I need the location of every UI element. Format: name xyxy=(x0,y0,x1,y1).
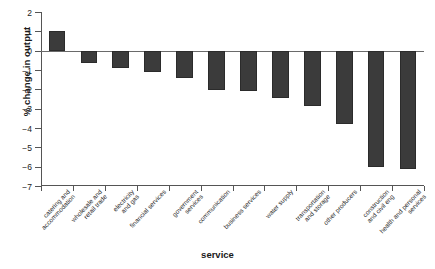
bar xyxy=(81,51,98,64)
y-tick-label: −2 xyxy=(22,85,32,95)
zero-baseline xyxy=(41,51,424,52)
y-tick-label: −6 xyxy=(22,162,32,172)
y-tick: −2 xyxy=(35,89,41,90)
bar xyxy=(112,51,129,68)
y-tick: −1 xyxy=(35,70,41,71)
y-tick-label: −5 xyxy=(22,143,32,153)
y-tick: −6 xyxy=(35,167,41,168)
y-tick-label: 2 xyxy=(27,8,32,18)
bar xyxy=(368,51,385,167)
y-axis-line xyxy=(41,12,42,186)
bar xyxy=(208,51,225,91)
bar xyxy=(304,51,321,106)
x-tick xyxy=(424,186,425,191)
bar xyxy=(272,51,289,98)
y-tick: 1 xyxy=(35,31,41,32)
bar xyxy=(336,51,353,124)
bar xyxy=(240,51,257,92)
y-tick-label: 0 xyxy=(27,46,32,56)
bar xyxy=(176,51,193,78)
bar xyxy=(400,51,417,169)
bar-chart: % change in output 210−1−2−3−4−5−6−7 cat… xyxy=(0,0,435,269)
y-tick: −5 xyxy=(35,147,41,148)
y-tick-label: −3 xyxy=(22,104,32,114)
y-tick-label: −1 xyxy=(22,66,32,76)
y-tick-label: 1 xyxy=(27,27,32,37)
x-axis-title: service xyxy=(0,249,435,260)
y-tick: 0 xyxy=(35,51,41,52)
y-tick: −3 xyxy=(35,109,41,110)
bar xyxy=(49,31,66,50)
y-tick: −4 xyxy=(35,128,41,129)
y-tick: 2 xyxy=(35,12,41,13)
plot-area: 210−1−2−3−4−5−6−7 xyxy=(41,12,424,186)
y-tick-label: −7 xyxy=(22,182,32,192)
x-axis-category-labels: catering andaccommodationwholesale andre… xyxy=(41,188,424,248)
y-tick-label: −4 xyxy=(22,124,32,134)
bar xyxy=(144,51,161,72)
